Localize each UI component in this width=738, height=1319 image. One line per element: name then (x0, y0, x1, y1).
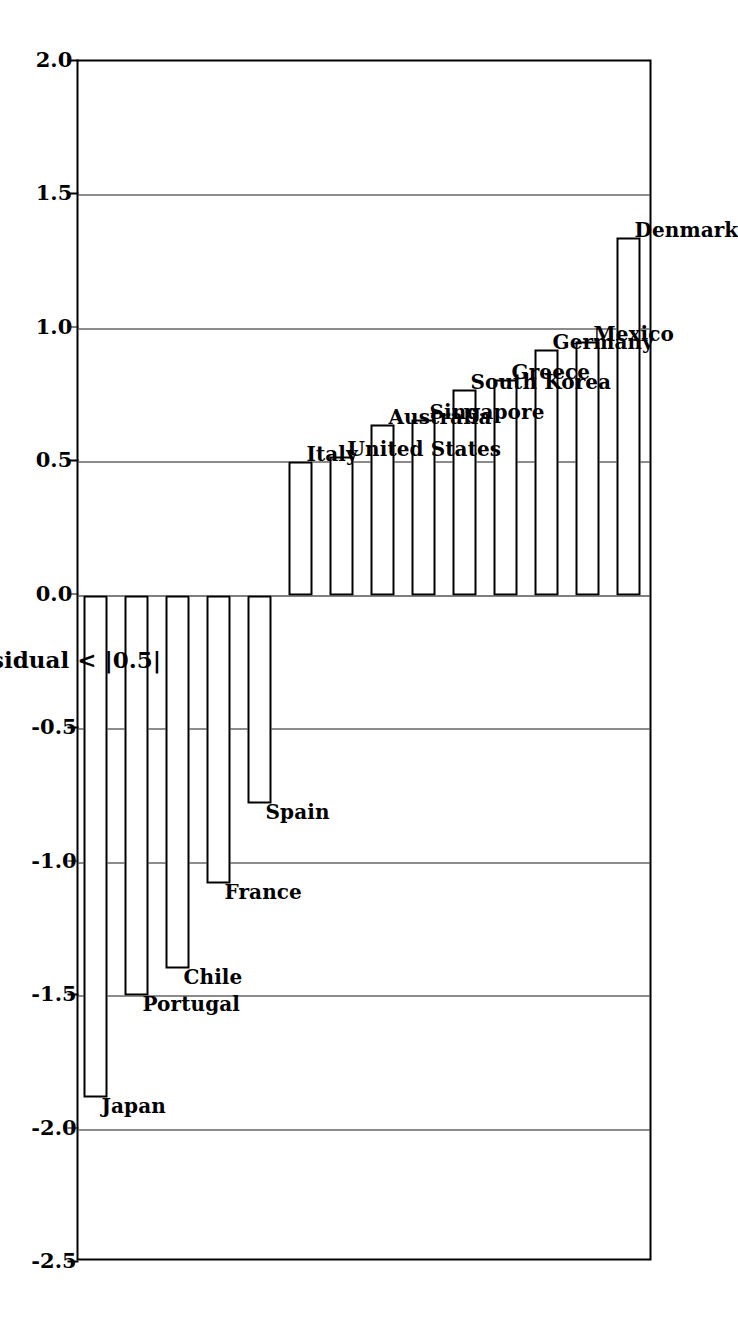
bar-label-portugal: Portugal (142, 991, 240, 1015)
gridline-0.5 (78, 461, 649, 462)
tick-label-text: 2.0 (35, 47, 72, 72)
tick-label-text: 0.0 (35, 580, 72, 605)
bar-label-australia: Australia (388, 404, 491, 428)
bar-label-south-korea: South Korea (470, 369, 611, 393)
gridline-1.5 (78, 194, 649, 195)
tick-label-2.0: 2.0 (41, 41, 66, 78)
tick-label-text: -2.0 (31, 1114, 76, 1139)
tick-label--1.0: -1.0 (41, 837, 66, 882)
bar-label-united-states: United States (347, 436, 501, 460)
bar-label-france: France (224, 879, 301, 903)
tick-label-text: -1.5 (31, 981, 76, 1006)
x-axis-title: Standardized Residual < |0.5| (0, 646, 161, 673)
plot-area: DenmarkMexicoGermanyGreeceSouth KoreaSin… (76, 59, 651, 1260)
bar-label-japan: Japan (101, 1093, 165, 1117)
bar-france (206, 595, 230, 883)
bar-label-chile: Chile (183, 964, 242, 988)
bar-label-denmark: Denmark (634, 217, 738, 241)
tick-label-text: 1.5 (35, 180, 72, 205)
tick-label-text: -1.0 (31, 847, 76, 872)
tick-label-0.5: 0.5 (41, 441, 66, 478)
gridline--0.5 (78, 728, 649, 729)
tick-label-text: 0.5 (35, 447, 72, 472)
tick-label--2.5: -2.5 (41, 1237, 66, 1282)
bar-label-italy: Italy (306, 441, 357, 465)
tick-label-1.5: 1.5 (41, 174, 66, 211)
tick-label-0.0: 0.0 (41, 574, 66, 611)
tick-label--0.5: -0.5 (41, 704, 66, 749)
bar-label-spain: Spain (265, 799, 329, 823)
bar-united-states (329, 456, 353, 595)
gridline--2.0 (78, 1129, 649, 1130)
gridline-0.0 (78, 595, 649, 597)
tick-label--1.5: -1.5 (41, 970, 66, 1015)
tick-label-text: -0.5 (31, 714, 76, 739)
bar-label-germany: Germany (552, 329, 653, 353)
tick-label-text: 1.0 (35, 313, 72, 338)
tick-label-1.0: 1.0 (41, 308, 66, 345)
bar-spain (247, 595, 271, 803)
gridline--1.0 (78, 862, 649, 863)
bar-chile (165, 595, 189, 969)
rotated-chart-wrapper: DenmarkMexicoGermanyGreeceSouth KoreaSin… (76, 59, 651, 1260)
tick-label--2.0: -2.0 (41, 1104, 66, 1149)
bar-denmark (616, 237, 640, 595)
bar-italy (288, 461, 312, 594)
tick-label-text: -2.5 (31, 1248, 76, 1273)
